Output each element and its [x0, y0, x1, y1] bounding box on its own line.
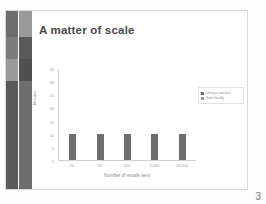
band-segment	[19, 59, 32, 81]
band-segment	[6, 81, 18, 190]
chart-legend: Using a serviceSent locally	[198, 87, 244, 104]
bar-series-group	[59, 69, 196, 160]
x-tick-label: 1,000	[141, 163, 169, 171]
bar	[179, 134, 186, 160]
x-tick-label: 20	[58, 163, 86, 171]
y-axis-label: Minutes	[32, 91, 37, 105]
y-tick-label: 35	[50, 67, 54, 72]
bar	[151, 134, 158, 160]
band-segment	[6, 59, 18, 81]
legend-item: Sent locally	[201, 96, 241, 100]
y-tick-label: 10	[50, 132, 54, 137]
plot-area	[58, 69, 196, 161]
bar-slot	[59, 69, 86, 160]
slide-title: A matter of scale	[39, 24, 135, 36]
band-segment	[6, 11, 18, 37]
band-segment	[19, 37, 32, 59]
y-tick-label: 25	[50, 93, 54, 98]
legend-label: Using a service	[206, 91, 231, 95]
y-tick-label: 15	[50, 119, 54, 124]
screenshot-page: A matter of scale Minutes 35302520151050…	[0, 0, 266, 204]
y-tick-label: 5	[52, 145, 54, 150]
bar-slot	[86, 69, 113, 160]
x-tick-label: 10,000	[168, 163, 196, 171]
bar-chart: Minutes 35302520151050 20501001,00010,00…	[34, 69, 244, 187]
y-axis-ticks: 35302520151050	[40, 69, 56, 161]
bar-slot	[114, 69, 141, 160]
bar-slot	[141, 69, 168, 160]
y-tick-label: 30	[50, 80, 54, 85]
bar	[69, 134, 76, 160]
band-segment	[19, 11, 32, 37]
band-segment	[6, 37, 18, 59]
legend-swatch-icon	[201, 97, 204, 100]
x-axis-label: Number of emails sent	[58, 173, 196, 178]
bar	[97, 134, 104, 160]
legend-label: Sent locally	[206, 96, 224, 100]
band-segment	[19, 81, 32, 190]
bar	[124, 134, 131, 160]
bar-slot	[169, 69, 196, 160]
x-axis-ticks: 20501001,00010,000	[58, 163, 196, 171]
y-tick-label: 0	[52, 159, 54, 164]
legend-item: Using a service	[201, 91, 241, 95]
y-tick-label: 20	[50, 106, 54, 111]
x-tick-label: 50	[86, 163, 114, 171]
legend-swatch-icon	[201, 92, 204, 95]
page-number: 3	[255, 191, 261, 202]
presentation-slide: A matter of scale Minutes 35302520151050…	[5, 10, 248, 190]
decorative-side-band	[6, 11, 32, 189]
x-tick-label: 100	[113, 163, 141, 171]
